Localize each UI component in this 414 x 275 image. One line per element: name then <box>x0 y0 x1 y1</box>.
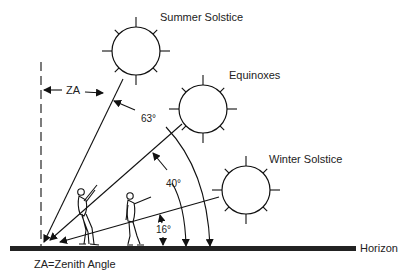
sun-equinox-icon <box>169 75 237 143</box>
summer-ray <box>44 79 123 242</box>
equinox-angle-label: 40° <box>166 178 181 189</box>
summer-angle-pointer <box>114 101 135 110</box>
sun-ray-tick <box>263 207 267 211</box>
sun-angle-diagram: Horizon Summer Solstice Equinoxes Winter… <box>0 0 414 275</box>
equinox-arc <box>172 183 186 246</box>
sun-ray-tick <box>153 30 157 34</box>
sun-ray-tick <box>220 126 224 130</box>
sun-ray-tick <box>220 88 224 92</box>
za-arrow-right <box>85 92 103 93</box>
summer-solstice-label: Summer Solstice <box>160 11 243 23</box>
sun-summer-icon <box>102 17 170 85</box>
winter-angle-up <box>160 215 162 223</box>
equinox-label: Equinoxes <box>229 69 281 81</box>
winter-solstice-label: Winter Solstice <box>269 153 342 165</box>
za-label: ZA <box>66 84 81 96</box>
sun-ray-tick <box>115 30 119 34</box>
horizon-bar <box>10 246 356 251</box>
sun-ray-tick <box>115 68 119 72</box>
sun-disc <box>112 27 160 75</box>
sun-ray-tick <box>182 126 186 130</box>
sun-ray-tick <box>182 88 186 92</box>
sun-ray-tick <box>225 169 229 173</box>
sun-disc <box>222 166 270 214</box>
sun-ray-tick <box>225 207 229 211</box>
summer-angle-label: 63° <box>141 113 156 124</box>
observer-figure-right <box>126 193 151 245</box>
sun-ray-tick <box>263 169 267 173</box>
horizon-label: Horizon <box>360 242 398 254</box>
sun-disc <box>179 85 227 133</box>
equinox-angle-pointer <box>153 153 167 170</box>
zenith-angle-legend: ZA=Zenith Angle <box>34 258 116 270</box>
winter-angle-label: 16° <box>156 224 171 235</box>
sun-winter-icon <box>212 156 280 224</box>
sun-ray-tick <box>153 68 157 72</box>
